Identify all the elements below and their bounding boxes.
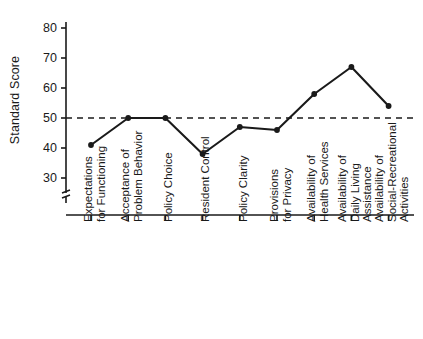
data-point-marker	[88, 142, 94, 148]
y-axis-break-icon	[62, 190, 70, 198]
y-tick-label: 70	[31, 52, 57, 65]
data-point-marker	[125, 115, 131, 121]
data-point-marker	[274, 127, 280, 133]
data-series-line	[91, 67, 389, 154]
data-point-marker	[349, 64, 355, 70]
y-tick-label: 50	[31, 112, 57, 125]
data-point-marker	[311, 91, 317, 97]
y-tick-label: 80	[31, 22, 57, 35]
y-tick-label: 40	[31, 142, 57, 155]
data-point-marker	[237, 124, 243, 130]
y-tick-label: 30	[31, 172, 57, 185]
plot-canvas	[0, 0, 423, 339]
data-point-marker	[386, 103, 392, 109]
data-point-marker	[163, 115, 169, 121]
chart-figure: Standard Score 304050607080 Expectations…	[0, 0, 423, 339]
data-point-marker	[200, 151, 206, 157]
y-tick-label: 60	[31, 82, 57, 95]
